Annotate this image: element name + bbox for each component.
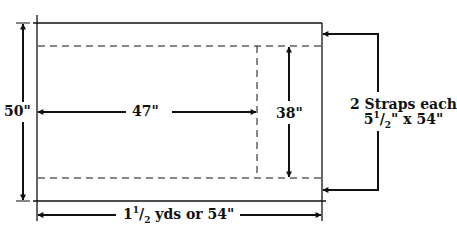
straps-rest: " x 54": [391, 111, 443, 127]
straps-line2: 51/2" x 54": [350, 112, 457, 127]
inner-width-label: 47": [128, 104, 163, 119]
length-whole: 1: [123, 206, 133, 222]
length-frac-num: 1: [133, 205, 139, 215]
length-rest: yds or 54": [150, 206, 234, 222]
height-label: 50": [3, 104, 32, 119]
straps-whole: 5: [364, 111, 374, 127]
straps-label: 2 Straps each 51/2" x 54": [350, 96, 457, 128]
length-label: 11/2 yds or 54": [118, 207, 239, 222]
straps-frac-num: 1: [373, 110, 379, 120]
inner-height-label: 38": [274, 104, 305, 123]
straps-line1: 2 Straps each: [350, 97, 457, 112]
